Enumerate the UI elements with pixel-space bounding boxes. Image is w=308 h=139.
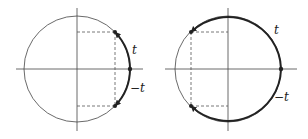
- left-point-t: [113, 30, 117, 34]
- right-point-neg-t: [189, 104, 193, 108]
- right-arc-neg-t: [192, 69, 282, 121]
- right-point-start: [279, 67, 283, 71]
- left-diagram: t −t: [16, 8, 145, 131]
- left-label-t: t: [132, 43, 137, 57]
- right-point-t: [189, 30, 193, 34]
- right-diagram: t −t: [165, 8, 297, 131]
- left-arc-neg-t: [116, 69, 131, 105]
- left-point-neg-t: [113, 104, 117, 108]
- right-arc-t: [192, 17, 282, 69]
- left-label-neg-t: −t: [130, 81, 145, 95]
- left-point-start: [128, 67, 132, 71]
- left-arc-t: [116, 33, 131, 69]
- figure: t −t t −t: [0, 0, 308, 139]
- right-label-neg-t: −t: [274, 90, 289, 104]
- right-label-t: t: [274, 23, 279, 37]
